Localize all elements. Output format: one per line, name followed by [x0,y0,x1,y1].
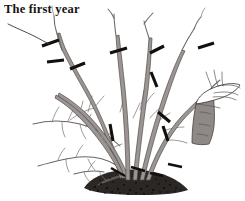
cut-mark-far-right-top [198,43,214,48]
cut-mark-base-far-right [168,164,182,167]
cut-mark-upper-left [42,40,59,46]
cane-group [55,33,210,180]
cane-left-lower-arching [55,95,126,178]
cut-mark-center-right-top [150,46,164,53]
caption-leader-line [8,24,49,44]
cut-stem-detail [192,70,240,145]
pruning-figure: The first year [0,0,245,201]
shrub-illustration [0,0,245,201]
cane-tips [52,6,220,92]
cut-mark-left-mid-upper [47,60,64,62]
cut-mark-center-right-mid [151,72,157,87]
